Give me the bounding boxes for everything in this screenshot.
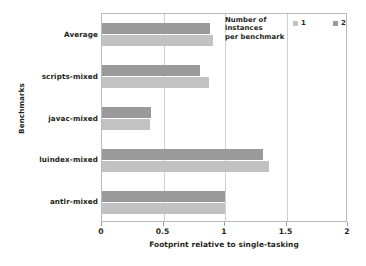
plot-area: [101, 13, 347, 222]
bars-layer: [102, 14, 346, 221]
x-axis-tick: [224, 222, 225, 226]
x-axis-tick-label: 1.5: [279, 227, 292, 236]
bar-Average-series-2: [102, 23, 210, 34]
bar-luindex-mixed-series-1: [102, 161, 269, 172]
bar-luindex-mixed-series-2: [102, 149, 263, 160]
legend-title-line: per benchmark: [225, 33, 287, 41]
x-axis-tick: [101, 222, 102, 226]
legend-entry-2[interactable]: 2: [333, 19, 346, 27]
legend-title-line: Number of: [225, 16, 287, 24]
x-axis-tick: [286, 222, 287, 226]
bar-antlr-mixed-series-2: [102, 191, 225, 202]
x-axis-tick: [347, 222, 348, 226]
bar-scripts-mixed-series-1: [102, 77, 209, 88]
bar-chart: Benchmarks Averagescripts-mixedjavac-mix…: [0, 0, 366, 266]
x-axis-tick-label: 2: [344, 227, 349, 236]
bar-scripts-mixed-series-2: [102, 65, 200, 76]
legend-entry-1[interactable]: 1: [293, 19, 306, 27]
legend-swatch-icon: [333, 21, 338, 26]
x-axis-tick-label: 0.5: [156, 227, 169, 236]
legend-swatch-icon: [293, 21, 298, 26]
y-axis-tick-label: Average: [18, 29, 98, 38]
legend: Number ofinstancesper benchmark 12: [225, 16, 360, 44]
bar-Average-series-1: [102, 35, 213, 46]
y-axis-tick-label: luindex-mixed: [18, 155, 98, 164]
x-axis-tick-label: 0: [98, 227, 103, 236]
bar-javac-mixed-series-2: [102, 107, 151, 118]
x-axis: 00.511.52: [101, 222, 347, 238]
legend-title-line: instances: [225, 24, 287, 32]
bar-antlr-mixed-series-1: [102, 203, 225, 214]
legend-label: 2: [341, 19, 346, 27]
y-axis-tick-labels: Averagescripts-mixedjavac-mixedluindex-m…: [18, 13, 98, 222]
y-axis-tick-label: scripts-mixed: [18, 71, 98, 80]
legend-title: Number ofinstancesper benchmark: [225, 16, 287, 41]
y-axis-tick-label: javac-mixed: [18, 113, 98, 122]
x-axis-tick: [163, 222, 164, 226]
y-axis-tick-label: antlr-mixed: [18, 197, 98, 206]
x-axis-tick-label: 1: [221, 227, 226, 236]
bar-javac-mixed-series-1: [102, 119, 150, 130]
legend-label: 1: [301, 19, 306, 27]
x-axis-title: Footprint relative to single-tasking: [101, 240, 347, 249]
